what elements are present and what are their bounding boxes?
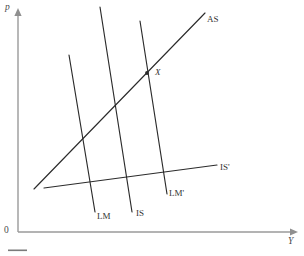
curve-lm-prime [140, 21, 167, 194]
horizontal-axis-label: Y [288, 237, 293, 247]
curve-label-lm: LM [97, 212, 111, 221]
curve-lm [69, 55, 95, 212]
equilibrium-label-x: X [155, 68, 161, 77]
isl-lm-as-figure: p Y 0 AS X IS' LM' IS LM [0, 0, 304, 256]
horizontal-axis-arrow-icon [290, 228, 298, 235]
footer-rule [8, 250, 27, 252]
diagram-canvas [0, 0, 304, 256]
curve-label-is: IS [136, 209, 144, 218]
curve-label-is-prime: IS' [220, 163, 230, 172]
curve-is-prime [44, 165, 217, 188]
curve-label-as: AS [207, 15, 219, 24]
curve-is [100, 7, 132, 212]
equilibrium-point-x [145, 71, 149, 75]
vertical-axis-arrow-icon [14, 8, 21, 16]
vertical-axis-label: p [5, 3, 10, 13]
curve-label-lm-prime: LM' [169, 189, 184, 198]
curve-as [34, 13, 205, 189]
origin-label: 0 [4, 226, 9, 236]
